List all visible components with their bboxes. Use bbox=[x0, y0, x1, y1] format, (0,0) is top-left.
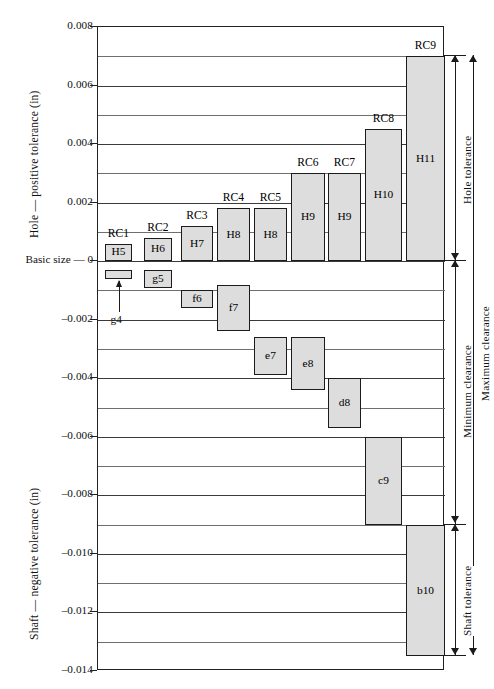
fit-class-label: RC5 bbox=[248, 192, 293, 203]
bar-label: d8 bbox=[328, 397, 361, 408]
bar-label: f6 bbox=[181, 293, 213, 304]
y-axis-title-lower: Shaft — negative tolerance (in) bbox=[28, 488, 41, 640]
gridline-minor bbox=[98, 642, 445, 643]
annotation-tick bbox=[444, 260, 466, 261]
y-tick-mark bbox=[90, 377, 97, 378]
bar-label: f7 bbox=[217, 302, 250, 313]
annotation-label-maximum-clearance: Maximum clearance bbox=[478, 306, 492, 401]
y-tick-mark bbox=[90, 553, 97, 554]
y-tick-label: 0.002 bbox=[19, 196, 93, 207]
gridline-major bbox=[98, 261, 445, 262]
annotation-tick bbox=[444, 655, 466, 656]
bar-label: H11 bbox=[406, 153, 445, 164]
y-tick-label: –0.012 bbox=[19, 605, 93, 616]
annotation-label-minimum-clearance: Minimum clearance bbox=[460, 345, 474, 438]
gridline-minor bbox=[98, 290, 445, 291]
g4-label: g4 bbox=[111, 313, 122, 325]
gridline-minor bbox=[98, 525, 445, 526]
bar-label: H9 bbox=[291, 211, 325, 222]
bar-label: H8 bbox=[254, 229, 287, 240]
annotation-tick bbox=[444, 55, 466, 56]
y-tick-mark bbox=[90, 260, 97, 261]
fit-class-label: RC2 bbox=[138, 222, 178, 233]
gridline-major bbox=[98, 378, 445, 379]
y-tick-mark bbox=[90, 494, 97, 495]
bar-label: H7 bbox=[181, 238, 213, 249]
annotation-arrow-up bbox=[451, 260, 459, 267]
y-tick-label: –0.006 bbox=[19, 430, 93, 441]
basic-size-label: Basic size — 0 bbox=[8, 254, 93, 265]
y-tick-mark bbox=[90, 436, 97, 437]
annotation-line-minimum-clearance bbox=[455, 260, 456, 523]
y-tick-label: –0.002 bbox=[19, 313, 93, 324]
fit-class-label: RC9 bbox=[400, 40, 451, 51]
y-tick-label: –0.014 bbox=[19, 664, 93, 675]
fit-class-label: RC1 bbox=[99, 228, 138, 239]
annotation-line-hole-tolerance bbox=[455, 55, 456, 260]
bar-label: c9 bbox=[365, 475, 402, 486]
y-axis-title-upper: Hole — positive tolerance (in) bbox=[28, 90, 41, 238]
g4-leader-arrow bbox=[119, 281, 120, 312]
y-tick-mark bbox=[90, 319, 97, 320]
gridline-minor bbox=[98, 56, 445, 57]
gridline-major bbox=[98, 86, 445, 87]
y-tick-label: –0.008 bbox=[19, 488, 93, 499]
y-tick-mark bbox=[90, 670, 97, 671]
annotation-arrow-up bbox=[451, 524, 459, 531]
y-tick-mark bbox=[90, 611, 97, 612]
annotation-label-shaft-tolerance: Shaft tolerance bbox=[460, 565, 474, 635]
bar-label: H6 bbox=[144, 243, 172, 254]
plot-area: H5RC1H6RC2H7RC3H8RC4H8RC5H9RC6H9RC7H10RC… bbox=[97, 26, 444, 670]
y-tick-mark bbox=[90, 202, 97, 203]
y-tick-label: 0.004 bbox=[19, 137, 93, 148]
y-tick-mark bbox=[90, 143, 97, 144]
fit-class-label: RC8 bbox=[359, 113, 408, 124]
bar-label: g5 bbox=[144, 273, 172, 284]
fit-class-label: RC7 bbox=[322, 157, 367, 168]
annotation-arrow-down bbox=[451, 253, 459, 260]
bar-label: H8 bbox=[217, 229, 250, 240]
annotation-arrow-up bbox=[451, 55, 459, 62]
shaft-bar bbox=[105, 270, 132, 279]
annotation-label-hole-tolerance: Hole tolerance bbox=[460, 135, 474, 203]
annotation-arrow-up bbox=[469, 55, 477, 62]
annotation-arrow-down bbox=[451, 648, 459, 655]
bar-label: H10 bbox=[365, 189, 402, 200]
gridline-major bbox=[98, 554, 445, 555]
y-tick-label: –0.010 bbox=[19, 547, 93, 558]
bar-label: b10 bbox=[406, 585, 445, 596]
annotation-arrow-down bbox=[451, 516, 459, 523]
annotation-tick bbox=[444, 524, 466, 525]
fit-class-label: RC3 bbox=[175, 210, 219, 221]
bar-label: H9 bbox=[328, 211, 361, 222]
gridline-minor bbox=[98, 408, 445, 409]
y-tick-label: –0.004 bbox=[19, 371, 93, 382]
bar-label: e8 bbox=[291, 358, 325, 369]
y-tick-mark bbox=[90, 85, 97, 86]
bar-label: e7 bbox=[254, 350, 287, 361]
annotation-arrow-down bbox=[469, 648, 477, 655]
gridline-major bbox=[98, 612, 445, 613]
tolerance-chart: Hole — positive tolerance (in) Shaft — n… bbox=[0, 0, 494, 689]
bar-label: H5 bbox=[105, 246, 132, 257]
y-tick-label: 0.006 bbox=[19, 79, 93, 90]
y-tick-mark bbox=[90, 26, 97, 27]
annotation-line-shaft-tolerance bbox=[455, 524, 456, 656]
gridline-major bbox=[98, 320, 445, 321]
y-tick-label: 0.008 bbox=[19, 20, 93, 31]
gridline-minor bbox=[98, 583, 445, 584]
